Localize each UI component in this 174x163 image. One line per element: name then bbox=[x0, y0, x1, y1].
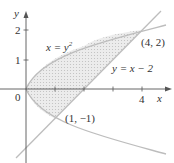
line-label: y = x − 2 bbox=[111, 62, 154, 74]
origin-label: 0 bbox=[15, 91, 21, 103]
y-tick-label-2: 2 bbox=[15, 24, 21, 36]
x-axis-arrow-icon bbox=[165, 87, 172, 92]
y-axis-label: y bbox=[13, 7, 19, 19]
y-axis-arrow-icon bbox=[24, 11, 29, 18]
point-label-4-2: (4, 2) bbox=[141, 36, 165, 49]
shaded-region bbox=[26, 30, 142, 119]
region-diagram: y 2 1 0 4 x x = y2 y = x − 2 (4, 2) (1, … bbox=[0, 0, 174, 163]
x-tick-label-4: 4 bbox=[139, 93, 145, 105]
y-tick-label-1: 1 bbox=[15, 54, 21, 66]
parabola-label: x = y2 bbox=[45, 40, 73, 53]
point-label-1-neg1: (1, −1) bbox=[65, 112, 95, 125]
x-axis-label: x bbox=[156, 92, 162, 104]
